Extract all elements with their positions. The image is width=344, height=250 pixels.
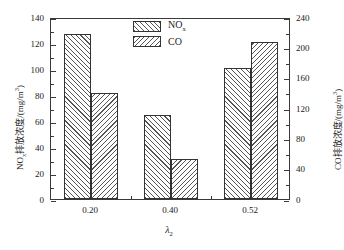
bar-nox-0.52[interactable] <box>224 68 251 199</box>
y-axis-left-minor-tick <box>51 136 54 137</box>
y-axis-right-tick-label: 160 <box>296 74 310 83</box>
y-axis-left-minor-tick <box>51 162 54 163</box>
y-axis-right-tick <box>284 140 289 141</box>
y-axis-right-minor-tick <box>286 185 289 186</box>
legend-label-co: CO <box>168 37 182 47</box>
y-axis-right-minor-tick <box>286 34 289 35</box>
y-axis-right-title: CO排放浓度/(mg/m3) <box>331 89 344 170</box>
x-axis-tick-label: 0.20 <box>68 206 112 215</box>
bar-co-0.52[interactable] <box>251 42 278 199</box>
y-axis-right-tick <box>284 201 289 202</box>
y-axis-left-tick-label: 0 <box>40 196 45 205</box>
y-axis-left-title: NOx排放浓度/(mg/m3) <box>13 85 27 170</box>
x-axis-minor-tick <box>211 196 212 199</box>
y-axis-right-tick-label: 0 <box>296 196 301 205</box>
y-axis-right-tick-label: 40 <box>296 165 305 174</box>
y-axis-right-tick-label: 120 <box>296 105 310 114</box>
y-axis-left-tick <box>51 201 56 202</box>
legend-item-co[interactable]: CO <box>133 35 186 48</box>
y-axis-right-minor-tick <box>286 94 289 95</box>
legend-label-nox: NOx <box>168 20 186 34</box>
y-axis-left-minor-tick <box>51 58 54 59</box>
x-axis-title-sub: 2 <box>170 230 173 237</box>
y-axis-left-tick-label: 40 <box>35 144 44 153</box>
y-axis-right-title-suffix: ) <box>333 89 343 92</box>
y-axis-right-tick <box>284 79 289 80</box>
y-axis-left-title-sub: x <box>20 154 27 157</box>
y-axis-left-title-middle: 排放浓度/(mg/m <box>15 91 25 154</box>
y-axis-right-tick <box>284 19 289 20</box>
y-axis-right-tick <box>284 170 289 171</box>
y-axis-left-tick <box>51 97 56 98</box>
x-axis-tick-label: 0.40 <box>148 206 192 215</box>
chart-legend: NOx CO <box>133 20 186 50</box>
y-axis-left-tick-label: 60 <box>35 118 44 127</box>
y-axis-left-tick <box>51 71 56 72</box>
y-axis-left-minor-tick <box>51 84 54 85</box>
y-axis-left-tick <box>51 149 56 150</box>
y-axis-left-tick <box>51 123 56 124</box>
y-axis-right-title-prefix: CO排放浓度/(mg/m <box>333 95 343 170</box>
x-axis-title: λ2 <box>0 224 338 237</box>
y-axis-left-tick-label: 140 <box>31 14 45 23</box>
legend-label-nox-sub: x <box>182 25 185 32</box>
y-axis-left-tick-label: 80 <box>35 92 44 101</box>
y-axis-right-tick <box>284 110 289 111</box>
y-axis-right-tick-label: 80 <box>296 135 305 144</box>
y-axis-left-tick-label: 100 <box>31 66 45 75</box>
y-axis-right-tick-label: 240 <box>296 14 310 23</box>
y-axis-left-tick-label: 20 <box>35 170 44 179</box>
bar-nox-0.40[interactable] <box>144 115 171 199</box>
y-axis-left-tick <box>51 45 56 46</box>
y-axis-left-tick <box>51 19 56 20</box>
y-axis-right-tick-label: 200 <box>296 44 310 53</box>
y-axis-right-minor-tick <box>286 125 289 126</box>
legend-swatch-co-icon <box>133 36 161 47</box>
y-axis-right-minor-tick <box>286 155 289 156</box>
y-axis-right-title-sup: 3 <box>331 92 338 95</box>
x-axis-minor-tick <box>131 196 132 199</box>
y-axis-left-minor-tick <box>51 32 54 33</box>
y-axis-left-tick <box>51 175 56 176</box>
y-axis-left-title-suffix: ) <box>15 85 25 88</box>
bar-co-0.20[interactable] <box>91 93 118 199</box>
y-axis-right-minor-tick <box>286 64 289 65</box>
legend-swatch-nox-icon <box>133 21 161 32</box>
bar-co-0.40[interactable] <box>171 159 198 199</box>
y-axis-left-title-sup: 3 <box>13 88 20 91</box>
y-axis-left-title-prefix: NO <box>15 157 25 170</box>
bar-nox-0.20[interactable] <box>64 34 91 199</box>
y-axis-right-tick <box>284 49 289 50</box>
x-axis-tick-label: 0.52 <box>228 206 272 215</box>
y-axis-left-tick-label: 120 <box>31 40 45 49</box>
legend-item-nox[interactable]: NOx <box>133 20 186 33</box>
y-axis-left-minor-tick <box>51 110 54 111</box>
y-axis-left-minor-tick <box>51 188 54 189</box>
